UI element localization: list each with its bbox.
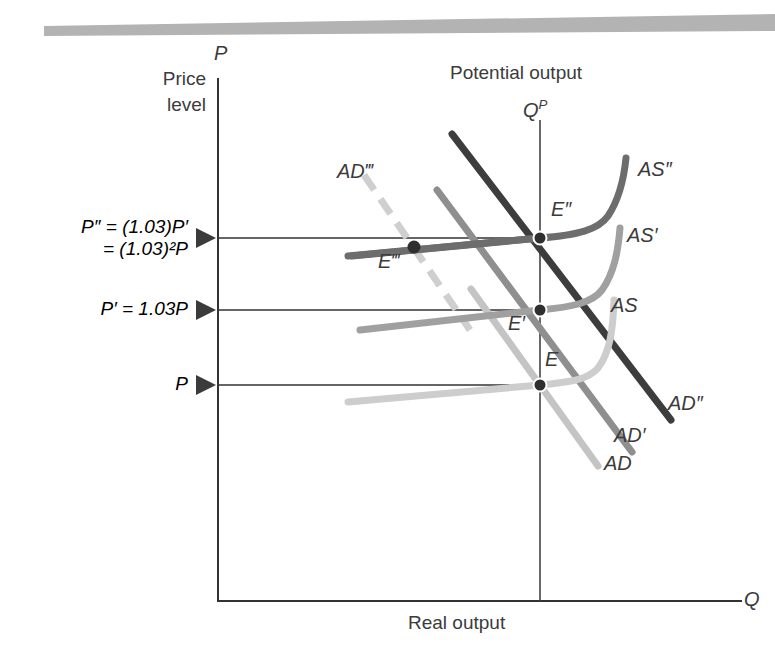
- ad-prime-label: AD′: [614, 424, 646, 446]
- price-label-P0-line1: P: [20, 373, 188, 395]
- ad-label: AD: [604, 452, 632, 474]
- price-label-P2-line1: P″ = (1.03)P′: [20, 216, 188, 238]
- y-axis-title-line1: Price: [120, 68, 206, 89]
- price-marker-P0: [196, 375, 216, 395]
- price-marker-P2: [196, 228, 216, 248]
- top-banner: [44, 14, 775, 36]
- x-axis-symbol: Q: [744, 588, 760, 610]
- equilibrium-dot-E-double-prime: [534, 232, 547, 245]
- potential-output-symbol: QP: [523, 98, 547, 121]
- as-double-prime-label: AS″: [638, 158, 672, 180]
- y-axis-symbol: P: [214, 42, 227, 64]
- price-label-P2: P″ = (1.03)P′ = (1.03)²P: [20, 216, 188, 260]
- equilibrium-label-E-prime: E′: [508, 312, 525, 334]
- ad-double-prime-label: AD″: [668, 392, 703, 414]
- equilibrium-dot-E-prime: [534, 304, 547, 317]
- equilibrium-dot-E: [534, 379, 547, 392]
- equilibrium-label-E-triple-prime: E‴: [378, 250, 398, 272]
- potential-output-symbol-sup: P: [539, 97, 548, 112]
- ad-as-figure: P Price level Q Real output Potential ou…: [0, 0, 775, 660]
- as-label: AS: [611, 294, 638, 316]
- as-prime-label: AS′: [627, 224, 657, 246]
- equilibrium-label-E-double-prime: E″: [551, 198, 571, 220]
- potential-output-caption: Potential output: [450, 62, 582, 83]
- equilibrium-label-E: E: [545, 348, 558, 370]
- price-marker-P1: [196, 300, 216, 320]
- price-label-P2-line2: = (1.03)²P: [20, 238, 188, 260]
- potential-output-symbol-base: Q: [523, 99, 539, 121]
- x-axis-title: Real output: [408, 612, 505, 633]
- equilibrium-dot-E-triple-prime: [408, 241, 421, 254]
- price-label-P1-line1: P′ = 1.03P: [20, 298, 188, 320]
- price-label-P1: P′ = 1.03P: [20, 298, 188, 320]
- price-label-P0: P: [20, 373, 188, 395]
- y-axis-title-line2: level: [120, 94, 206, 115]
- ad-triple-prime-equilibrium-segment: [348, 238, 540, 256]
- ad-triple-prime-label: AD‴: [337, 160, 372, 182]
